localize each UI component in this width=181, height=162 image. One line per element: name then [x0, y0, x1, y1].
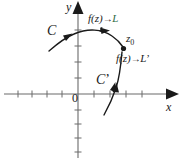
y-axis-label: y	[66, 1, 71, 13]
curve-Cprime-label: C’	[96, 73, 110, 87]
curve-Cprime-label-letter: C	[96, 72, 105, 87]
limit-label-L: f(z)→L	[88, 13, 118, 24]
x-axis-arrowhead	[166, 89, 179, 100]
limit-Lprime-function: f(z)	[116, 52, 131, 64]
point-z0-subscript: 0	[130, 38, 134, 47]
point-z0-label: z0	[126, 33, 134, 47]
curve-C-path	[49, 30, 123, 51]
limit-Lprime-prime: ’	[146, 52, 150, 64]
limit-L-value: L	[112, 12, 118, 24]
curve-C-label: C	[47, 24, 56, 38]
origin-label: 0	[72, 92, 78, 104]
axes-group	[4, 10, 166, 158]
figure-canvas	[0, 0, 181, 162]
curve-Cprime-direction-arrowhead-2	[110, 82, 116, 92]
complex-plane-limit-figure: y x 0 C C’ z0 f(z)→L f(z)→L’	[0, 0, 181, 162]
limit-L-function: f(z)	[88, 12, 103, 24]
curve-Cprime-label-prime: ’	[105, 72, 110, 87]
limit-label-Lprime: f(z)→L’	[116, 53, 150, 64]
y-axis-arrowhead	[73, 1, 84, 14]
limit-Lprime-arrow-icon: →	[131, 53, 141, 64]
limit-L-arrow-icon: →	[103, 13, 113, 24]
x-axis-label: x	[166, 101, 171, 113]
